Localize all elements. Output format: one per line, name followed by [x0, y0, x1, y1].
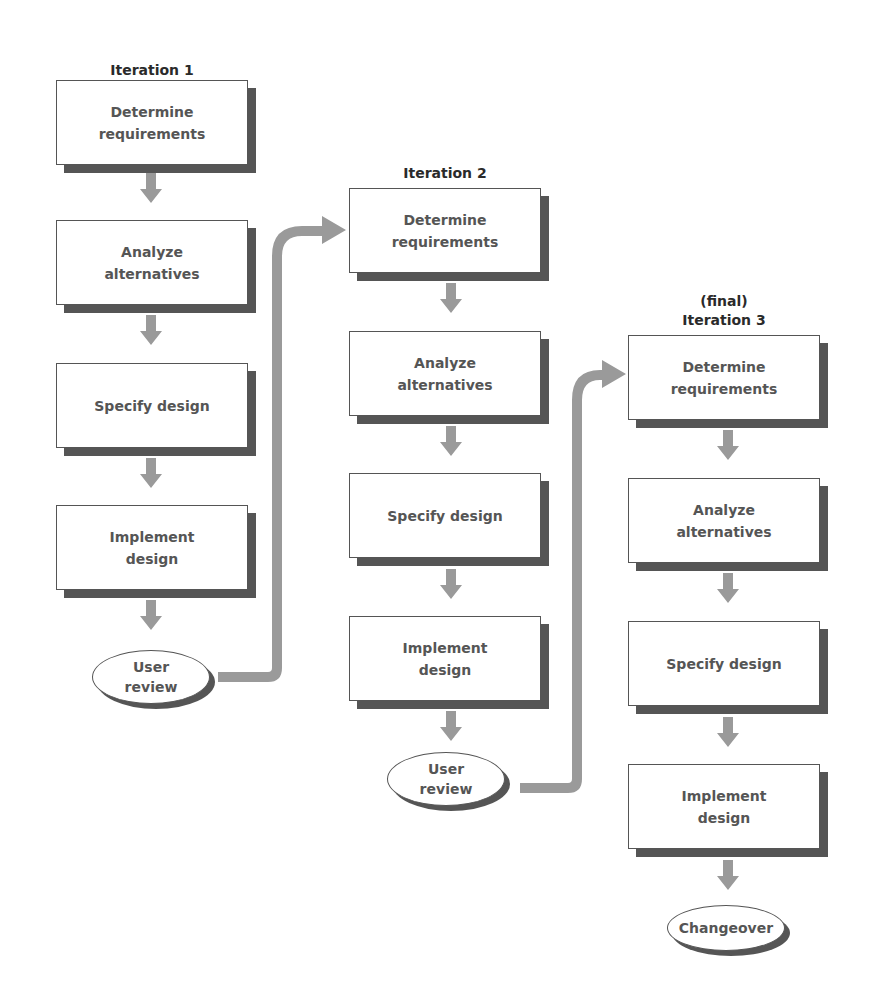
step-analyze-alternatives: Analyze alternatives: [628, 478, 820, 563]
down-arrow-icon: [717, 860, 739, 890]
down-arrow-icon: [140, 458, 162, 488]
changeover-oval: Changeover: [667, 905, 785, 951]
iteration-1-title: Iteration 1: [56, 61, 248, 80]
down-arrow-icon: [440, 711, 462, 741]
user-review-oval: User review: [92, 650, 210, 704]
step-label: Implement design: [403, 637, 488, 681]
step-determine-requirements: Determine requirements: [628, 335, 820, 420]
step-specify-design: Specify design: [56, 363, 248, 448]
iteration-3-title-final: (final): [628, 292, 820, 311]
step-label: Analyze alternatives: [397, 352, 492, 396]
step-specify-design: Specify design: [628, 621, 820, 706]
iteration-3-title: Iteration 3: [628, 311, 820, 330]
step-implement-design: Implement design: [628, 764, 820, 849]
step-specify-design: Specify design: [349, 473, 541, 558]
down-arrow-icon: [440, 426, 462, 456]
step-implement-design: Implement design: [56, 505, 248, 590]
oval-label: User review: [420, 759, 473, 799]
iteration-2-title: Iteration 2: [349, 164, 541, 183]
down-arrow-icon: [717, 717, 739, 747]
step-label: Specify design: [666, 653, 781, 675]
step-label: Analyze alternatives: [104, 241, 199, 285]
loop-arrow-2: [520, 360, 626, 793]
oval-label: Changeover: [679, 918, 773, 938]
down-arrow-icon: [140, 600, 162, 630]
step-implement-design: Implement design: [349, 616, 541, 701]
step-label: Analyze alternatives: [676, 499, 771, 543]
step-label: Determine requirements: [392, 209, 499, 253]
down-arrow-icon: [140, 173, 162, 203]
down-arrow-icon: [440, 569, 462, 599]
down-arrow-icon: [140, 315, 162, 345]
down-arrow-icon: [717, 573, 739, 603]
step-analyze-alternatives: Analyze alternatives: [56, 220, 248, 305]
step-label: Specify design: [387, 505, 502, 527]
step-determine-requirements: Determine requirements: [349, 188, 541, 273]
down-arrow-icon: [440, 283, 462, 313]
step-label: Specify design: [94, 395, 209, 417]
step-analyze-alternatives: Analyze alternatives: [349, 331, 541, 416]
step-determine-requirements: Determine requirements: [56, 80, 248, 165]
step-label: Implement design: [110, 526, 195, 570]
step-label: Determine requirements: [671, 356, 778, 400]
oval-label: User review: [125, 657, 178, 697]
down-arrow-icon: [717, 430, 739, 460]
step-label: Determine requirements: [99, 101, 206, 145]
step-label: Implement design: [682, 785, 767, 829]
user-review-oval: User review: [387, 752, 505, 806]
